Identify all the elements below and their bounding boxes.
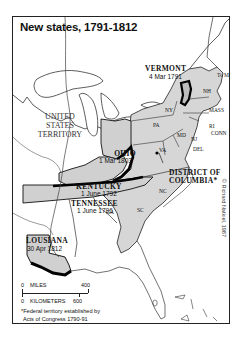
label-ri: RI [209,124,215,130]
scale-miles-zero: 0 [21,283,24,289]
label-sc: SC [137,208,144,214]
territory-line-1: UNITED [33,112,87,121]
date-vermont: 4 Mar 1791 [149,74,182,81]
label-pa: PA [153,123,160,129]
label-district-line2: COLUMBIA* [169,177,218,185]
scale-km-label: KILOMETERS [30,299,65,305]
scale-tick-km [79,293,80,297]
label-us-territory: UNITED STATES TERRITORY [33,112,87,140]
scale-miles-max: 400 [81,283,90,289]
label-louisiana: LOUSIANA [26,237,68,245]
label-conn: CONN [211,131,227,137]
scale-tick-miles [88,289,89,293]
footnote: *Federal territory established by Acts o… [21,308,100,323]
label-del: DEL [193,147,204,153]
label-nj: NJ [191,137,197,143]
territory-line-3: TERRITORY [33,130,87,139]
date-kentucky: 1 June 1792 [81,191,117,198]
territory-line-2: STATES [33,121,87,130]
date-ohio: 1 Mar 1803 [99,158,132,165]
label-to-mass: To Mass [217,73,230,79]
scale-km-max: 600 [73,299,82,305]
scale-km-zero: 0 [21,299,24,305]
label-vermont: VERMONT [145,65,186,73]
date-louisiana: 30 Apr 1812 [27,246,62,253]
scale-miles-label: MILES [30,283,47,289]
label-va: VA [159,148,166,154]
label-ny: NY [165,108,173,114]
copyright-credit: © Richard Natkiel, 1987 [221,179,227,237]
map-frame: New states, 1791-1812 VERMONT 4 Mar 1791… [12,16,230,324]
scale-tick-zero [22,289,23,297]
label-mass: MASS [209,108,224,114]
date-tennessee: 1 June 1796 [77,208,113,215]
label-md: MD [177,133,186,139]
map-title: New states, 1791-1812 [20,22,137,34]
footnote-line-1: *Federal territory established by [21,308,100,316]
label-nc: NC [159,189,167,195]
label-nh: NH [203,89,211,95]
footnote-line-2: Acts of Congress 1790-91 [21,316,100,324]
